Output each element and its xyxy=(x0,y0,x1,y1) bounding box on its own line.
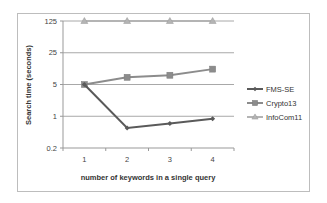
legend: FMS-SECrypto13InfoCom11 xyxy=(247,85,302,122)
legend-item-infocom11: InfoCom11 xyxy=(247,113,302,122)
square-marker-icon xyxy=(124,74,130,80)
y-tick-labels: 12525510.2 xyxy=(44,17,57,153)
legend-label: FMS-SE xyxy=(266,85,294,94)
gridlines xyxy=(63,21,234,116)
x-tick-label: 2 xyxy=(125,155,129,164)
legend-label: Crypto13 xyxy=(266,99,296,108)
legend-label: InfoCom11 xyxy=(266,113,302,122)
y-tick-label: 1 xyxy=(53,112,57,121)
y-axis-title: Search time (seconds) xyxy=(24,44,33,125)
series-fms-se xyxy=(82,82,215,131)
x-tick-label: 4 xyxy=(211,155,215,164)
legend-item-crypto13: Crypto13 xyxy=(247,99,296,108)
series-infocom11 xyxy=(81,18,216,24)
y-tick-label: 125 xyxy=(44,17,57,26)
line-chart: 12525510.2 1234 Search time (seconds) nu… xyxy=(0,0,327,203)
square-marker-icon xyxy=(167,72,173,78)
diamond-marker-icon xyxy=(167,121,172,126)
x-tick-label: 1 xyxy=(82,155,86,164)
series-lines xyxy=(81,18,216,131)
y-tick-label: 25 xyxy=(49,48,57,57)
x-tick-labels: 1234 xyxy=(82,155,214,164)
x-tick-label: 3 xyxy=(168,155,172,164)
diamond-marker-icon xyxy=(253,87,258,92)
legend-item-fms-se: FMS-SE xyxy=(247,85,294,94)
square-marker-icon xyxy=(210,66,216,72)
diamond-marker-icon xyxy=(210,116,215,121)
x-axis-title: number of keywords in a single query xyxy=(81,173,216,182)
y-tick-label: 5 xyxy=(53,80,57,89)
y-tick-label: 0.2 xyxy=(47,144,57,153)
square-marker-icon xyxy=(252,100,257,105)
